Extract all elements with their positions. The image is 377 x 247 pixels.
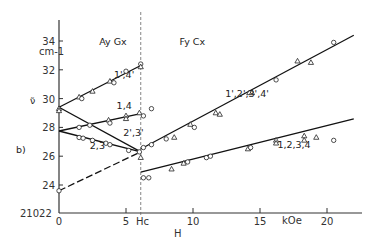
data-point-circle: [332, 138, 336, 142]
data-point-circle: [149, 106, 153, 110]
data-point-triangle: [172, 135, 177, 140]
series-line: [141, 119, 354, 172]
series-lines: [59, 35, 354, 191]
series-label: 1,4: [117, 100, 132, 111]
chart: 24262830323405101520 b) ν̃ cm-1 21022 H …: [0, 0, 377, 247]
series-label: 2,3: [90, 140, 105, 151]
data-point-triangle: [137, 110, 142, 115]
data-point-circle: [141, 176, 145, 180]
x-tick-label: 15: [254, 216, 267, 227]
data-point-circle: [141, 145, 145, 149]
data-point-circle: [208, 154, 212, 158]
y-tick-label: 24: [42, 180, 55, 191]
panel-label: b): [16, 144, 26, 155]
phase-label: Fy Cx: [180, 36, 206, 47]
data-point-circle: [108, 121, 112, 125]
data-point-triangle: [295, 58, 300, 63]
series-label: 2',3': [123, 127, 143, 138]
data-point-circle: [88, 123, 92, 127]
x-tick-label: 20: [321, 216, 334, 227]
critical-field-label: Hc: [136, 216, 149, 227]
data-point-circle: [332, 40, 336, 44]
x-unit-label: kOe: [282, 215, 302, 226]
data-point-circle: [137, 150, 141, 154]
y-axis-label: ν̃: [30, 95, 35, 106]
y-unit-label: cm-1: [39, 46, 64, 57]
data-point-circle: [81, 136, 85, 140]
phase-label: Ay Gx: [99, 36, 127, 47]
series-points: [56, 40, 336, 193]
data-point-circle: [141, 114, 145, 118]
series-label: 1,2,3,4: [277, 139, 310, 150]
x-tick-label: 10: [187, 216, 200, 227]
data-point-circle: [112, 81, 116, 85]
data-point-triangle: [308, 60, 313, 65]
series-line: [59, 152, 141, 191]
series-label: 1',2',3',4': [225, 88, 269, 99]
data-point-circle: [57, 189, 61, 193]
data-point-circle: [192, 125, 196, 129]
data-point-circle: [77, 125, 81, 129]
x-tick-label: 0: [56, 216, 62, 227]
data-point-triangle: [138, 155, 143, 160]
y-tick-label: 28: [42, 122, 55, 133]
x-tick-label: 5: [123, 216, 129, 227]
x-axis-label: H: [174, 228, 182, 239]
y-tick-label: 30: [42, 94, 55, 105]
y-origin-label: 21022: [20, 208, 52, 219]
y-tick-label: 32: [42, 65, 55, 76]
data-point-circle: [80, 96, 84, 100]
data-point-triangle: [314, 135, 319, 140]
data-point-circle: [185, 160, 189, 164]
data-point-circle: [126, 148, 130, 152]
data-point-circle: [274, 78, 278, 82]
data-point-circle: [147, 176, 151, 180]
data-point-circle: [108, 142, 112, 146]
data-point-triangle: [213, 110, 218, 115]
data-point-triangle: [169, 166, 174, 171]
y-tick-label: 26: [42, 151, 55, 162]
series-label: 1',4': [114, 69, 134, 80]
data-point-circle: [248, 145, 252, 149]
data-point-circle: [164, 137, 168, 141]
data-point-circle: [149, 142, 153, 146]
